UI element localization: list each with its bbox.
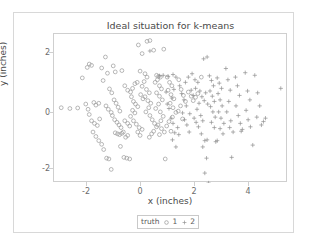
data-point (140, 52, 144, 56)
data-point (129, 114, 133, 118)
data-point (130, 95, 134, 99)
data-point (158, 110, 162, 114)
plus-icon (181, 219, 188, 226)
data-point (197, 101, 201, 105)
data-point (133, 111, 137, 115)
data-point (160, 98, 164, 102)
data-point (225, 110, 229, 114)
data-point (206, 102, 210, 106)
data-point (168, 101, 172, 105)
data-point (172, 87, 176, 91)
data-point (180, 92, 184, 96)
data-point (108, 87, 112, 91)
data-point (84, 102, 88, 106)
data-point (188, 112, 192, 116)
data-point (153, 80, 157, 84)
data-point (131, 86, 135, 90)
data-point (161, 73, 165, 77)
data-point (202, 99, 206, 103)
data-point (100, 142, 104, 146)
data-point (149, 101, 153, 105)
y-tick-label-neg2: -2 (32, 164, 50, 173)
x-tick-label-4: 4 (236, 187, 260, 196)
data-point (169, 129, 173, 133)
data-point (230, 155, 234, 159)
data-point (138, 134, 142, 138)
data-point (168, 80, 172, 84)
data-point (199, 113, 203, 117)
data-point (150, 132, 154, 136)
data-point (97, 139, 101, 143)
data-point (194, 120, 198, 124)
data-point (68, 107, 72, 111)
data-point (193, 86, 197, 90)
data-point (166, 74, 170, 78)
data-point (212, 99, 216, 103)
data-point (186, 90, 190, 94)
data-point (233, 75, 237, 79)
data-point (145, 88, 149, 92)
data-point (203, 139, 207, 143)
data-point (189, 94, 193, 98)
data-point (237, 93, 241, 97)
data-point (244, 108, 248, 112)
data-point (132, 100, 136, 104)
data-point (204, 156, 208, 160)
data-point (248, 125, 252, 129)
data-point (259, 123, 263, 127)
data-point (205, 55, 209, 59)
legend[interactable]: truth 1 2 (137, 215, 199, 229)
data-point (59, 106, 63, 110)
x-axis-title: x (inches) (53, 196, 287, 206)
data-point (166, 88, 170, 92)
data-point (106, 107, 110, 111)
data-point (279, 86, 283, 90)
data-point (208, 105, 212, 109)
data-point (148, 49, 152, 53)
data-point (251, 143, 255, 147)
data-point (136, 43, 140, 47)
data-point (217, 110, 221, 114)
data-point (113, 70, 117, 74)
data-point (218, 98, 222, 102)
data-point (195, 107, 199, 111)
data-point (179, 104, 183, 108)
legend-entry-2[interactable]: 2 (181, 218, 195, 226)
data-point (207, 74, 211, 78)
x-tick-mark (248, 182, 249, 186)
data-point (258, 104, 262, 108)
data-point (139, 93, 143, 97)
data-point (102, 148, 106, 152)
data-point (107, 157, 111, 161)
x-tick-mark (194, 182, 195, 186)
legend-title: truth (141, 218, 159, 226)
data-point (211, 110, 215, 114)
data-point (154, 107, 158, 111)
data-point (218, 127, 222, 131)
data-point (221, 132, 225, 136)
data-point (113, 131, 117, 135)
data-point (209, 78, 213, 82)
data-point (80, 76, 84, 80)
data-point (184, 104, 188, 108)
data-point (76, 106, 80, 110)
data-point (177, 133, 181, 137)
data-point (224, 66, 228, 70)
data-point (138, 69, 142, 73)
data-point (91, 130, 95, 134)
data-point (179, 88, 183, 92)
data-point (86, 107, 90, 111)
data-point (235, 84, 239, 88)
series-1-markers (59, 39, 203, 172)
data-point (110, 91, 114, 95)
data-point (128, 124, 132, 128)
data-point (177, 78, 181, 82)
data-point (129, 90, 133, 94)
legend-entry-1[interactable]: 1 (163, 218, 177, 226)
data-point (119, 145, 123, 149)
data-point (248, 98, 252, 102)
data-point (170, 84, 174, 88)
data-point (140, 128, 144, 132)
data-point (226, 78, 230, 82)
data-point (246, 118, 250, 122)
